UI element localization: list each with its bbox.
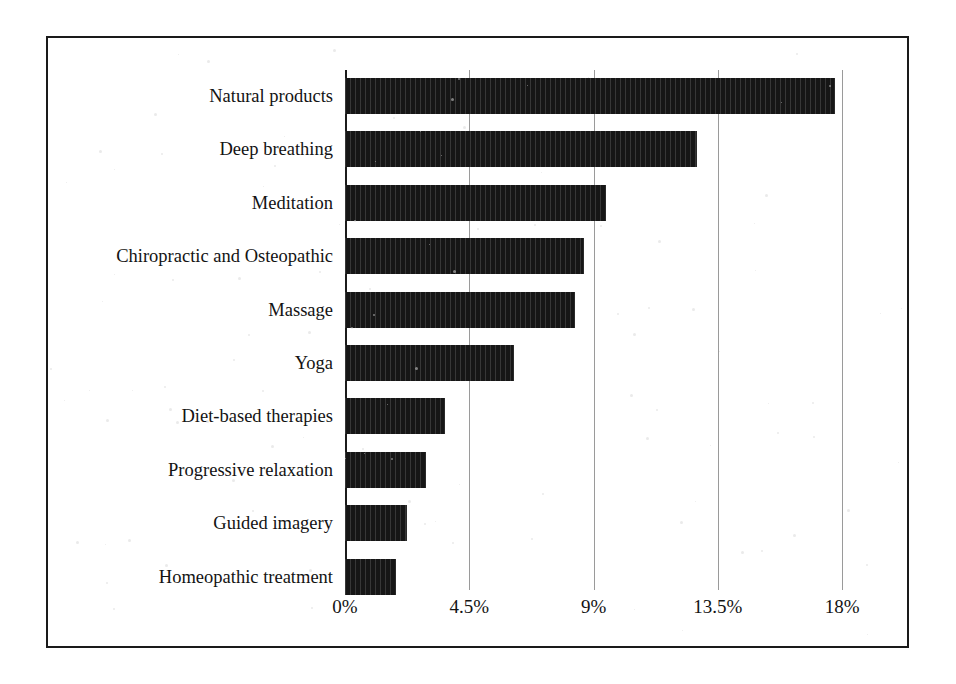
- bar: [345, 292, 575, 328]
- scan-speckle: [303, 437, 304, 438]
- bar: [345, 345, 514, 381]
- bar-row: [345, 238, 583, 274]
- scan-speckle: [238, 277, 241, 280]
- scan-speckle: [719, 351, 720, 352]
- scan-speckle: [458, 78, 460, 80]
- scan-speckle: [796, 53, 798, 55]
- category-label: Natural products: [60, 78, 333, 114]
- scan-speckle: [646, 437, 649, 440]
- scan-speckle: [765, 194, 768, 197]
- scan-speckle: [258, 254, 259, 255]
- category-label: Diet-based therapies: [60, 398, 333, 434]
- bar: [345, 452, 426, 488]
- bar: [345, 559, 396, 595]
- scan-speckle: [362, 448, 364, 450]
- scan-speckle: [233, 359, 235, 361]
- bar-row: [345, 345, 513, 381]
- scan-speckle: [477, 228, 479, 230]
- scan-speckle: [164, 386, 166, 388]
- category-label: Homeopathic treatment: [60, 559, 333, 595]
- bar-row: [345, 505, 406, 541]
- scan-speckle: [319, 271, 321, 273]
- scan-speckle: [777, 432, 779, 434]
- gridline-18-percent: [842, 70, 843, 590]
- category-label: Meditation: [60, 185, 333, 221]
- scan-speckle: [178, 54, 179, 55]
- scan-speckle: [252, 510, 254, 512]
- figure-border: [46, 36, 909, 648]
- scan-speckle: [274, 165, 276, 167]
- scan-speckle: [271, 445, 274, 448]
- scan-speckle: [866, 564, 868, 566]
- scan-speckle: [106, 419, 109, 422]
- chart-figure: Natural productsDeep breathingMeditation…: [0, 0, 956, 684]
- x-tick-label: 13.5%: [663, 596, 773, 618]
- category-label: Guided imagery: [60, 505, 333, 541]
- scan-speckle: [898, 462, 899, 463]
- bar: [345, 131, 697, 167]
- bar-row: [345, 452, 425, 488]
- bar: [345, 185, 606, 221]
- category-label: Yoga: [60, 345, 333, 381]
- gridline-13p5-percent: [718, 70, 719, 590]
- scan-speckle: [459, 484, 460, 485]
- bar-row: [345, 78, 834, 114]
- bar-row: [345, 185, 605, 221]
- scan-speckle: [527, 85, 528, 86]
- scan-speckle: [588, 77, 589, 78]
- scan-speckle: [263, 186, 264, 187]
- scan-speckle: [232, 479, 235, 482]
- bar: [345, 238, 584, 274]
- category-label: Progressive relaxation: [60, 452, 333, 488]
- scan-speckle: [207, 60, 210, 63]
- category-label: Chiropractic and Osteopathic: [60, 238, 333, 274]
- scan-speckle: [311, 607, 313, 609]
- scan-speckle: [226, 474, 227, 475]
- scan-speckle: [154, 113, 157, 116]
- bar: [345, 505, 407, 541]
- scan-speckle: [415, 367, 418, 370]
- scan-speckle: [262, 390, 264, 392]
- scan-speckle: [339, 224, 340, 225]
- bar-row: [345, 131, 696, 167]
- x-tick-label: 9%: [539, 596, 649, 618]
- scan-speckle: [656, 409, 658, 411]
- scan-speckle: [630, 394, 633, 397]
- scan-speckle: [617, 313, 619, 315]
- bar: [345, 398, 445, 434]
- category-label: Massage: [60, 292, 333, 328]
- scan-speckle: [695, 501, 696, 502]
- scan-speckle: [105, 544, 106, 545]
- scan-speckle: [710, 445, 711, 446]
- x-tick-label: 0%: [290, 596, 400, 618]
- scan-speckle: [206, 420, 209, 423]
- scan-speckle: [393, 117, 395, 119]
- scan-speckle: [64, 400, 65, 401]
- bar-row: [345, 398, 444, 434]
- scan-speckle: [373, 314, 375, 316]
- scan-speckle: [309, 569, 312, 572]
- bar-row: [345, 292, 574, 328]
- scan-speckle: [169, 408, 172, 411]
- bar: [345, 78, 835, 114]
- scan-speckle: [755, 270, 756, 271]
- x-tick-label: 4.5%: [414, 596, 524, 618]
- scan-speckle: [333, 49, 336, 52]
- scan-speckle: [761, 550, 763, 552]
- scan-speckle: [452, 542, 454, 544]
- scan-speckle: [880, 313, 881, 314]
- scan-speckle: [176, 421, 179, 424]
- x-tick-label: 18%: [787, 596, 897, 618]
- bar-row: [345, 559, 395, 595]
